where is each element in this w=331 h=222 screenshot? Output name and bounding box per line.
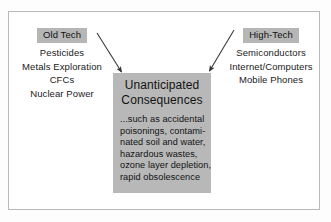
- high-tech-item-list: Semiconductors Internet/Computers Mobile…: [219, 46, 323, 87]
- unanticipated-consequences-box: Unanticipated Consequences ...such as ac…: [113, 73, 211, 193]
- old-tech-item-cfcs: CFCs: [10, 73, 114, 87]
- old-tech-item-metals-exploration: Metals Exploration: [10, 60, 114, 74]
- old-tech-item-nuclear-power: Nuclear Power: [10, 87, 114, 101]
- old-tech-header: Old Tech: [37, 28, 87, 44]
- center-box-body: ...such as accidental poisonings, contam…: [118, 114, 206, 184]
- diagram-canvas: Old Tech Pesticides Metals Exploration C…: [0, 0, 331, 222]
- high-tech-item-internet-computers: Internet/Computers: [219, 60, 323, 74]
- center-box-body-line-6: rapid obsolescence: [120, 172, 206, 184]
- center-box-title-line2: Consequences: [118, 93, 206, 108]
- old-tech-column: Old Tech Pesticides Metals Exploration C…: [10, 24, 114, 100]
- old-tech-item-pesticides: Pesticides: [10, 46, 114, 60]
- high-tech-column: High-Tech Semiconductors Internet/Comput…: [219, 24, 323, 87]
- center-box-title: Unanticipated Consequences: [118, 78, 206, 107]
- center-box-body-line-5: ozone layer depletion,: [120, 160, 206, 172]
- high-tech-item-semiconductors: Semiconductors: [219, 46, 323, 60]
- high-tech-header: High-Tech: [243, 28, 299, 44]
- center-box-body-line-2: poisonings, contami-: [120, 126, 206, 138]
- center-box-body-line-4: hazardous wastes,: [120, 149, 206, 161]
- high-tech-item-mobile-phones: Mobile Phones: [219, 73, 323, 87]
- old-tech-item-list: Pesticides Metals Exploration CFCs Nucle…: [10, 46, 114, 100]
- center-box-body-line-3: nated soil and water,: [120, 137, 206, 149]
- center-box-body-line-1: ...such as accidental: [120, 114, 206, 126]
- center-box-title-line1: Unanticipated: [118, 78, 206, 93]
